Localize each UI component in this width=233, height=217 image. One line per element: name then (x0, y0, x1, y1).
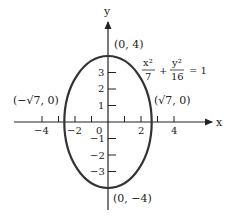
y-tick-label: −2 (90, 150, 105, 161)
diagram-canvas: x y −4 −2 0 2 4 3 2 1 −1 −2 −3 (0, 4) (0… (0, 0, 233, 217)
svg-text:16: 16 (171, 71, 184, 82)
ellipse-diagram: x y −4 −2 0 2 4 3 2 1 −1 −2 −3 (0, 4) (0… (0, 0, 233, 217)
y-tick-label: 2 (98, 83, 104, 94)
y-tick-label: 1 (98, 100, 104, 111)
x-axis-label: x (216, 116, 223, 129)
svg-text:y²: y² (171, 57, 182, 68)
ellipse-equation: x² 7 + y² 16 = 1 (142, 57, 207, 82)
x-tick-label: −2 (67, 125, 82, 136)
x-tick-label: −4 (34, 125, 49, 136)
svg-text:= 1: = 1 (189, 65, 207, 76)
y-axis-label: y (103, 5, 111, 18)
covertex-right-label: (√7, 0) (154, 94, 191, 107)
vertex-top-label: (0, 4) (114, 38, 144, 51)
x-tick-label: 2 (138, 125, 144, 136)
covertex-left-label: (−√7, 0) (13, 94, 59, 107)
svg-text:7: 7 (145, 71, 151, 82)
vertex-bottom-label: (0, −4) (113, 192, 152, 205)
y-tick-label: −1 (90, 133, 105, 144)
svg-text:+: + (159, 65, 167, 76)
y-tick-label: −3 (90, 166, 105, 177)
svg-text:x²: x² (143, 57, 153, 68)
y-tick-label: 3 (98, 67, 104, 78)
x-tick-label: 4 (171, 125, 177, 136)
